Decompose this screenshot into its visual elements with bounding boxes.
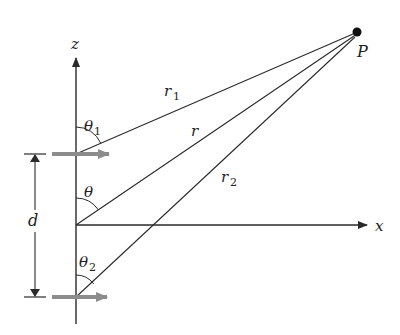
x-axis-label: x: [375, 217, 384, 235]
theta1-label: θ 1: [84, 117, 101, 138]
theta-label: θ: [84, 183, 93, 201]
svg-text:2: 2: [89, 261, 96, 274]
field-point-p: [353, 28, 362, 37]
r-line: [76, 36, 354, 225]
r1-label: r 1: [164, 82, 180, 103]
r-label: r: [191, 122, 199, 140]
r2-line: [76, 37, 355, 297]
separation-d-label: d: [28, 211, 38, 230]
svg-text:r: r: [164, 82, 172, 100]
r2-label: r 2: [221, 168, 237, 189]
svg-text:1: 1: [173, 90, 180, 103]
dipole-diagram: z x P r 1 r r 2 θ 1 θ θ 2 d: [0, 0, 400, 335]
svg-text:r: r: [221, 168, 229, 186]
theta2-label: θ 2: [79, 253, 96, 274]
svg-text:r: r: [191, 122, 199, 140]
svg-text:θ: θ: [84, 183, 93, 201]
svg-text:θ: θ: [79, 253, 88, 271]
z-axis-label: z: [70, 35, 79, 53]
svg-text:1: 1: [94, 125, 101, 138]
point-p-label: P: [356, 42, 368, 61]
svg-text:2: 2: [230, 176, 237, 189]
r1-line: [76, 34, 353, 154]
svg-text:θ: θ: [84, 117, 93, 135]
